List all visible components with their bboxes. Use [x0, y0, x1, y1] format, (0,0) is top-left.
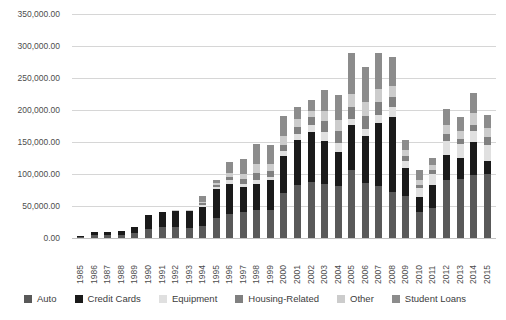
bar-column	[196, 14, 210, 238]
bar-segment-student-loans	[416, 170, 423, 180]
bar-column	[413, 14, 427, 238]
legend-item[interactable]: Housing-Related	[235, 294, 319, 304]
bar-segment-other	[267, 164, 274, 171]
bar-column	[453, 14, 467, 238]
bar-column	[399, 14, 413, 238]
bar-segment-other	[335, 120, 342, 132]
x-axis-tick: 1987	[101, 240, 115, 284]
bar-stack	[118, 231, 125, 238]
bar-segment-credit-cards	[443, 155, 450, 181]
bar-segment-auto	[145, 229, 152, 238]
x-axis-tick: 2008	[386, 240, 400, 284]
bar-segment-housing-related	[348, 107, 355, 119]
bar-stack	[253, 144, 260, 238]
bar-segment-credit-cards	[429, 185, 436, 208]
bar-segment-equipment	[389, 107, 396, 117]
bar-segment-credit-cards	[416, 197, 423, 212]
bar-segment-auto	[457, 179, 464, 238]
y-axis-tick-label: 150,000.00	[17, 138, 60, 147]
bar-segment-housing-related	[362, 116, 369, 129]
bar-stack	[389, 57, 396, 238]
x-axis-tick-label: 1993	[185, 240, 194, 284]
x-axis-tick-label: 2015	[483, 240, 492, 284]
bar-stack	[77, 236, 84, 238]
x-axis-tick: 2001	[291, 240, 305, 284]
bar-column	[115, 14, 129, 238]
bar-stack	[91, 232, 98, 238]
x-axis-tick-label: 1988	[117, 240, 126, 284]
bar-segment-student-loans	[457, 117, 464, 131]
bar-segment-student-loans	[226, 162, 233, 174]
bar-segment-credit-cards	[321, 141, 328, 184]
legend-swatch-auto	[24, 295, 32, 303]
bar-segment-auto	[308, 182, 315, 238]
x-axis-tick-label: 1994	[198, 240, 207, 284]
bar-segment-student-loans	[267, 145, 274, 164]
bar-segment-other	[321, 111, 328, 121]
x-axis-tick-label: 1990	[144, 240, 153, 284]
bar-segment-credit-cards	[240, 187, 247, 212]
legend-item[interactable]: Credit Cards	[75, 294, 141, 304]
x-axis-tick-label: 2013	[456, 240, 465, 284]
bar-segment-auto	[213, 218, 220, 238]
bar-segment-auto	[186, 228, 193, 238]
legend-item[interactable]: Other	[337, 294, 374, 304]
bar-segment-other	[457, 131, 464, 139]
x-axis-tick: 2003	[318, 240, 332, 284]
legend-item[interactable]: Auto	[24, 294, 57, 304]
bar-segment-credit-cards	[213, 189, 220, 218]
legend-item[interactable]: Student Loans	[392, 294, 466, 304]
bar-segment-auto	[402, 196, 409, 238]
bar-segment-credit-cards	[308, 132, 315, 182]
bar-segment-credit-cards	[226, 184, 233, 214]
x-axis-tick: 1999	[264, 240, 278, 284]
y-axis-tick-label: 100,000.00	[17, 170, 60, 179]
bar-segment-credit-cards	[470, 142, 477, 175]
bar-stack	[267, 145, 274, 238]
bar-stack	[429, 158, 436, 238]
bar-segment-student-loans	[375, 53, 382, 89]
x-axis-tick-label: 1997	[239, 240, 248, 284]
bar-stack	[362, 67, 369, 238]
bar-segment-housing-related	[294, 127, 301, 135]
x-axis-tick-label: 2002	[307, 240, 316, 284]
bar-segment-other	[375, 89, 382, 102]
x-axis-tick-label: 1991	[158, 240, 167, 284]
bar-segment-student-loans	[335, 95, 342, 119]
bar-column	[209, 14, 223, 238]
bar-segment-auto	[131, 233, 138, 238]
bar-segment-credit-cards	[172, 211, 179, 227]
bar-segment-other	[253, 164, 260, 174]
x-axis-tick: 2012	[440, 240, 454, 284]
x-axis-tick: 1995	[209, 240, 223, 284]
bar-stack	[484, 115, 491, 239]
bar-segment-housing-related	[389, 97, 396, 107]
bar-segment-auto	[280, 193, 287, 238]
x-axis-tick: 2009	[399, 240, 413, 284]
bar-segment-credit-cards	[348, 125, 355, 170]
bar-segment-credit-cards	[335, 152, 342, 187]
bar-segment-equipment	[335, 143, 342, 151]
bar-stack	[375, 53, 382, 238]
bar-column	[331, 14, 345, 238]
bar-stack	[416, 170, 423, 238]
x-axis-tick-label: 2009	[401, 240, 410, 284]
bar-segment-student-loans	[443, 109, 450, 126]
bar-segment-auto	[253, 210, 260, 238]
bar-stack	[280, 116, 287, 238]
bar-segment-credit-cards	[186, 211, 193, 228]
x-axis-tick-label: 2005	[347, 240, 356, 284]
x-axis-tick-label: 2011	[428, 240, 437, 284]
bar-segment-credit-cards	[389, 117, 396, 192]
bar-segment-auto	[470, 175, 477, 238]
bar-segment-credit-cards	[294, 140, 301, 185]
bar-segment-equipment	[484, 145, 491, 161]
bar-segment-credit-cards	[457, 158, 464, 179]
y-axis-tick-label: 200,000.00	[17, 106, 60, 115]
axis-baseline	[72, 238, 496, 239]
legend-item[interactable]: Equipment	[159, 294, 217, 304]
x-axis-tick: 1992	[169, 240, 183, 284]
bar-segment-other	[294, 119, 301, 127]
bar-stack	[443, 109, 450, 238]
bar-stack	[199, 196, 206, 238]
